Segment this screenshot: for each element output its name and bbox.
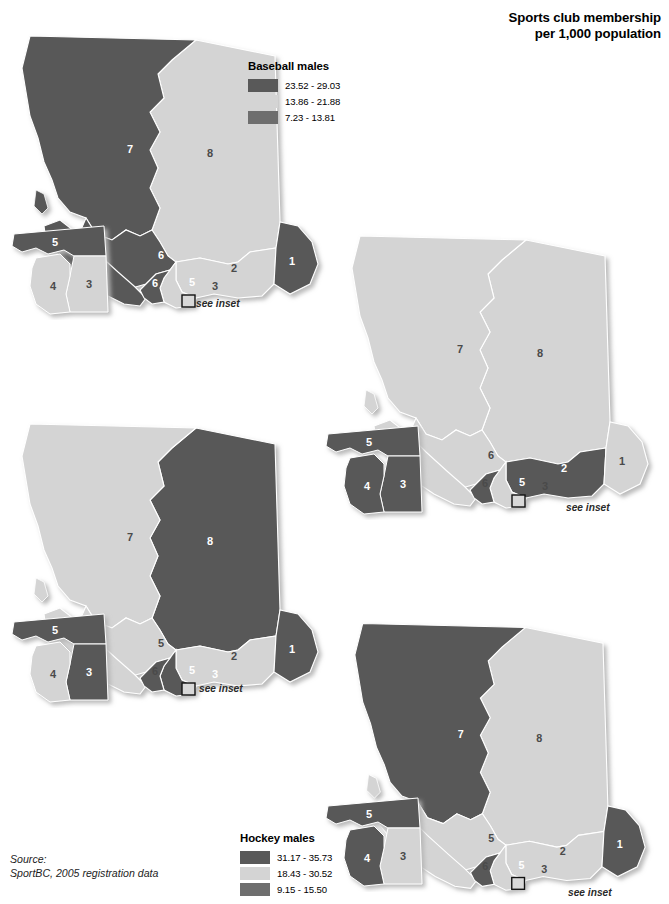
legend-row-1: 18.43 - 30.52 — [240, 866, 332, 881]
legend-label-1: 18.43 - 30.52 — [277, 868, 332, 879]
coastline-detail-softball — [364, 390, 378, 414]
coastline-detail-baseball — [34, 190, 48, 214]
legend-title-hockey: Hockey males — [240, 832, 332, 845]
legend-swatch-1 — [240, 867, 270, 880]
inset-region-label-3: 3 — [400, 478, 406, 490]
see-inset-caption-baseball: see inset — [196, 298, 240, 309]
inset-region-label-5: 5 — [366, 808, 372, 820]
legend-row-2: 7.23 - 13.81 — [248, 110, 340, 125]
region-label-6a: 5 — [488, 832, 494, 844]
legend-title-baseball: Baseball males — [248, 60, 340, 73]
legend-swatch-1 — [248, 95, 278, 108]
inset-locator-box-baseball — [182, 295, 195, 307]
map-panel-hockey: 7 8 5 6 5 2 3 1 5 4 3 Hockey males — [0, 400, 340, 710]
region-label-3: 3 — [212, 668, 218, 680]
inset-region-5-hockey — [12, 614, 106, 644]
legend-swatch-0 — [248, 79, 278, 92]
see-inset-caption-figureskating: see inset — [568, 887, 612, 898]
legend-hockey: Hockey males 31.17 - 35.73 18.43 - 30.52… — [240, 832, 332, 898]
legend-label-2: 7.23 - 13.81 — [285, 112, 335, 123]
region-label-6b: 6 — [152, 277, 158, 289]
region-label-5: 5 — [189, 664, 195, 676]
inset-map-figureskating: 5 4 3 — [322, 792, 442, 892]
region-8-hockey — [150, 428, 280, 652]
legend-swatch-2 — [240, 883, 270, 896]
inset-region-5-baseball — [12, 226, 106, 256]
legend-row-2: 9.15 - 15.50 — [240, 882, 332, 897]
region-label-6b: 6 — [152, 665, 158, 677]
region-label-3: 3 — [541, 863, 547, 875]
region-label-2: 2 — [560, 845, 566, 857]
inset-region-label-3: 3 — [86, 278, 92, 290]
region-label-5: 5 — [189, 276, 195, 288]
region-label-6a: 6 — [158, 249, 164, 261]
legend-swatch-2 — [248, 111, 278, 124]
region-label-7: 7 — [457, 343, 463, 355]
inset-region-label-5: 5 — [52, 624, 58, 636]
region-label-6a: 6 — [488, 449, 494, 461]
region-1-figureskating — [602, 806, 645, 877]
region-label-1: 1 — [289, 643, 295, 655]
see-inset-caption-hockey: see inset — [199, 683, 243, 694]
inset-region-5-figureskating — [326, 798, 420, 828]
region-label-1: 1 — [617, 838, 623, 850]
region-label-7: 7 — [458, 728, 464, 740]
inset-locator-box-figureskating — [512, 878, 525, 890]
inset-region-label-3: 3 — [86, 666, 92, 678]
inset-region-label-5: 5 — [52, 236, 58, 248]
see-inset-caption-softball: see inset — [566, 502, 610, 513]
legend-label-1: 13.86 - 21.88 — [285, 96, 340, 107]
legend-label-2: 9.15 - 15.50 — [277, 884, 327, 895]
region-1-hockey — [274, 610, 318, 682]
region-label-6b: 6 — [482, 860, 488, 872]
region-label-6a: 5 — [158, 637, 164, 649]
inset-region-label-4: 4 — [50, 280, 57, 292]
inset-map-softball: 5 4 3 — [322, 420, 442, 520]
page-title: Sports club membership per 1,000 populat… — [509, 10, 661, 42]
source-note: Source: SportBC, 2005 registration data — [10, 852, 158, 880]
region-label-8: 8 — [537, 347, 543, 359]
region-label-6b: 6 — [482, 477, 488, 489]
inset-region-label-4: 4 — [364, 852, 371, 864]
region-label-2: 2 — [561, 462, 567, 474]
legend-label-0: 23.52 - 29.03 — [285, 80, 340, 91]
legend-swatch-0 — [240, 851, 270, 864]
inset-region-label-4: 4 — [50, 668, 57, 680]
inset-map-baseball: 5 4 3 — [8, 220, 128, 320]
region-label-8: 8 — [207, 147, 213, 159]
region-8-softball — [480, 240, 610, 464]
legend-row-1: 13.86 - 21.88 — [248, 94, 340, 109]
region-label-1: 1 — [289, 255, 295, 267]
inset-region-label-4: 4 — [364, 480, 371, 492]
region-label-8: 8 — [207, 535, 213, 547]
region-label-5: 5 — [519, 476, 525, 488]
legend-row-0: 31.17 - 35.73 — [240, 850, 332, 865]
region-label-2: 2 — [231, 262, 237, 274]
legend-row-0: 23.52 - 29.03 — [248, 78, 340, 93]
map-panel-baseball: 7 8 6 6 5 2 3 1 5 4 3 Baseball males — [0, 12, 340, 322]
legend-baseball: Baseball males 23.52 - 29.03 13.86 - 21.… — [248, 60, 340, 126]
inset-map-hockey: 5 4 3 — [8, 608, 128, 708]
region-label-7: 7 — [127, 531, 133, 543]
region-label-5: 5 — [519, 859, 525, 871]
region-label-2: 2 — [231, 650, 237, 662]
region-label-7: 7 — [127, 143, 133, 155]
coastline-detail-hockey — [34, 578, 48, 602]
region-1-softball — [604, 422, 648, 494]
map-panel-softball: 7 8 6 6 5 2 3 1 5 4 3 Softball females — [330, 212, 669, 532]
region-label-3: 3 — [212, 280, 218, 292]
inset-region-5-softball — [326, 426, 420, 456]
region-label-1: 1 — [619, 455, 625, 467]
region-label-8: 8 — [536, 732, 542, 744]
inset-region-label-5: 5 — [366, 436, 372, 448]
map-panel-figureskating: 7 8 5 6 5 2 3 1 5 4 3 Figure skating fem… — [330, 600, 669, 904]
inset-locator-box-softball — [512, 495, 525, 507]
region-1-baseball — [274, 222, 318, 294]
inset-locator-box-hockey — [182, 683, 195, 695]
region-8-figureskating — [480, 627, 607, 847]
legend-label-0: 31.17 - 35.73 — [277, 852, 332, 863]
region-label-3: 3 — [542, 480, 548, 492]
inset-region-label-3: 3 — [400, 850, 406, 862]
